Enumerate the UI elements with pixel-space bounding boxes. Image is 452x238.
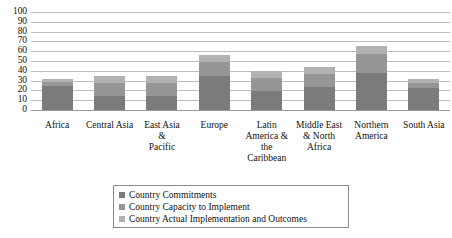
x-axis-category-label: Europe	[188, 116, 240, 178]
bar-segment[interactable]	[356, 54, 387, 73]
bar-slot	[83, 0, 135, 115]
bar-series-container	[31, 0, 450, 115]
bar-segment[interactable]	[251, 71, 282, 78]
x-axis-category-label: Middle East& NorthAfrica	[293, 116, 345, 178]
x-axis-category-label: East Asia&Pacific	[136, 116, 188, 178]
plot-area	[31, 0, 450, 115]
x-axis-category-label: Central Asia	[83, 116, 135, 178]
bar-segment[interactable]	[199, 55, 230, 62]
bar-segment[interactable]	[94, 76, 125, 83]
stacked-bar[interactable]	[356, 46, 387, 110]
bar-segment[interactable]	[356, 46, 387, 54]
plot-wrapper: 0102030405060708090100	[0, 0, 452, 115]
bar-segment[interactable]	[304, 87, 335, 110]
bar-segment[interactable]	[304, 74, 335, 88]
stacked-bar[interactable]	[146, 76, 177, 110]
legend-item-label: Country Capacity to Implement	[129, 202, 250, 213]
y-axis-tick-label: 60	[1, 46, 27, 56]
bar-segment[interactable]	[199, 62, 230, 76]
bar-segment[interactable]	[42, 86, 73, 110]
bar-segment[interactable]	[146, 96, 177, 110]
y-axis-tick-label: 50	[1, 56, 27, 66]
stacked-bar[interactable]	[251, 71, 282, 110]
y-axis: 0102030405060708090100	[0, 0, 30, 115]
bar-segment[interactable]	[251, 78, 282, 92]
x-axis-category-label: NorthernAmerica	[345, 116, 397, 178]
stacked-bar-chart: 0102030405060708090100 AfricaCentral Asi…	[0, 0, 452, 238]
y-axis-tick-label: 20	[1, 85, 27, 95]
bar-segment[interactable]	[251, 91, 282, 110]
stacked-bar[interactable]	[42, 79, 73, 110]
bar-segment[interactable]	[146, 83, 177, 97]
bar-slot	[398, 0, 450, 115]
y-axis-tick-label: 40	[1, 66, 27, 76]
y-axis-tick-label: 90	[1, 17, 27, 27]
chart-legend: Country CommitmentsCountry Capacity to I…	[113, 185, 349, 228]
x-axis-category-label: Africa	[31, 116, 83, 178]
stacked-bar[interactable]	[408, 79, 439, 110]
bar-slot	[31, 0, 83, 115]
bar-segment[interactable]	[94, 96, 125, 110]
x-axis-category-label: LatinAmerica &theCaribbean	[241, 116, 293, 178]
legend-swatch-icon	[119, 192, 125, 198]
legend-item-label: Country Commitments	[129, 190, 216, 201]
bar-segment[interactable]	[146, 76, 177, 83]
y-axis-tick-label: 70	[1, 36, 27, 46]
legend-swatch-icon	[119, 204, 125, 210]
bar-segment[interactable]	[304, 67, 335, 74]
y-axis-tick-label: 100	[1, 7, 27, 17]
x-axis-category-label: South Asia	[398, 116, 450, 178]
x-axis: AfricaCentral AsiaEast Asia&PacificEurop…	[31, 116, 450, 178]
bar-segment[interactable]	[408, 88, 439, 110]
legend-item-label: Country Actual Implementation and Outcom…	[129, 214, 307, 225]
legend-item[interactable]: Country Commitments	[119, 189, 344, 201]
bar-segment[interactable]	[94, 83, 125, 97]
y-axis-tick-label: 0	[1, 105, 27, 115]
legend-item[interactable]: Country Actual Implementation and Outcom…	[119, 213, 344, 225]
bar-slot	[188, 0, 240, 115]
legend-swatch-icon	[119, 216, 125, 222]
stacked-bar[interactable]	[94, 76, 125, 110]
bar-segment[interactable]	[356, 73, 387, 110]
bar-slot	[345, 0, 397, 115]
bar-slot	[293, 0, 345, 115]
y-axis-tick-label: 10	[1, 95, 27, 105]
y-axis-tick-label: 80	[1, 27, 27, 37]
bar-segment[interactable]	[199, 76, 230, 110]
stacked-bar[interactable]	[304, 67, 335, 110]
legend-item[interactable]: Country Capacity to Implement	[119, 201, 344, 213]
stacked-bar[interactable]	[199, 55, 230, 110]
bar-slot	[136, 0, 188, 115]
bar-slot	[241, 0, 293, 115]
y-axis-tick-label: 30	[1, 76, 27, 86]
